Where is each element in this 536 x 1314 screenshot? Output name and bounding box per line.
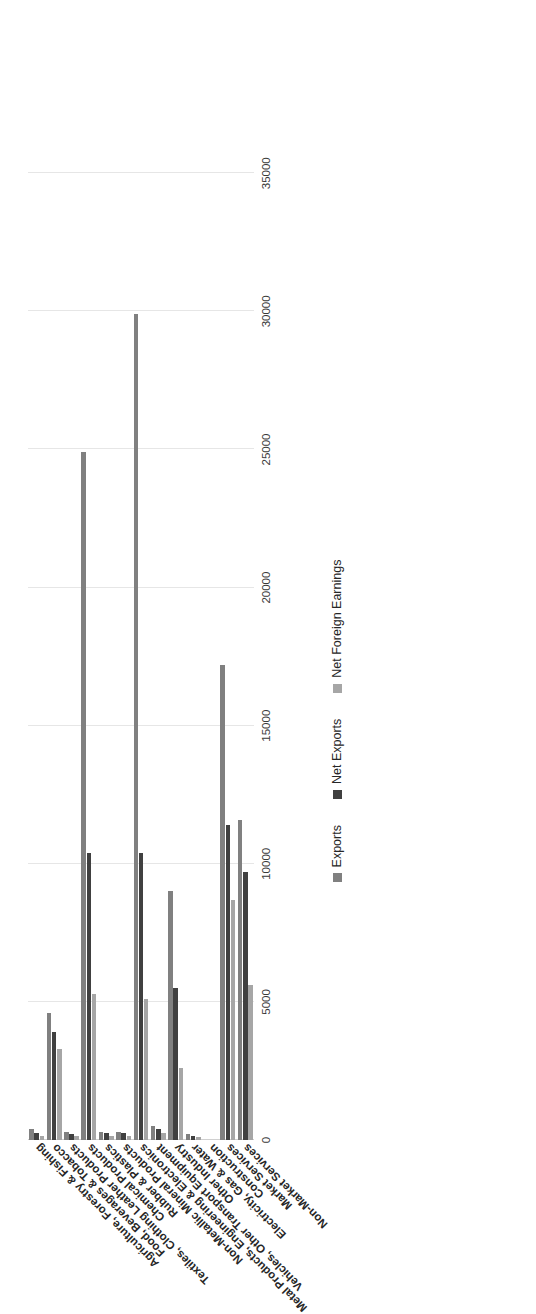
bar	[99, 1132, 104, 1140]
tick-label: 30000	[260, 295, 272, 327]
bar	[87, 853, 92, 1140]
bar	[34, 1133, 39, 1140]
bar	[127, 1136, 132, 1140]
legend-swatch-icon	[333, 684, 342, 693]
gridline	[28, 310, 254, 311]
legend-swatch-icon	[333, 790, 342, 799]
bar	[139, 853, 144, 1140]
bar	[231, 900, 236, 1140]
bar	[168, 891, 173, 1140]
bar	[238, 820, 243, 1140]
bar	[92, 994, 97, 1140]
bar	[134, 314, 139, 1140]
tick-label: 0	[260, 1137, 272, 1143]
bar	[109, 1136, 114, 1140]
bar	[243, 872, 248, 1140]
bar	[47, 1013, 52, 1140]
bar	[144, 999, 149, 1140]
tick-label: 25000	[260, 433, 272, 465]
bar	[151, 1126, 156, 1140]
bar	[69, 1134, 74, 1140]
legend-item[interactable]: Exports	[330, 825, 344, 882]
bar	[220, 665, 225, 1140]
bar	[179, 1068, 184, 1140]
bar	[248, 985, 253, 1140]
bar	[64, 1132, 69, 1140]
bar	[40, 1136, 45, 1140]
bar	[121, 1133, 126, 1140]
bar	[191, 1136, 196, 1140]
chart-legend: ExportsNet ExportsNet Foreign Earnings	[330, 210, 344, 1232]
bar	[29, 1129, 34, 1140]
legend-item[interactable]: Net Exports	[330, 719, 344, 799]
bar	[226, 825, 231, 1140]
bar	[74, 1136, 79, 1140]
gridline	[28, 172, 254, 173]
legend-item[interactable]: Net Foreign Earnings	[330, 560, 344, 693]
legend-label: Exports	[330, 825, 344, 867]
bar	[161, 1133, 166, 1140]
bar	[186, 1134, 191, 1140]
legend-label: Net Exports	[330, 719, 344, 784]
bar	[104, 1133, 109, 1140]
tick-label: 5000	[260, 989, 272, 1015]
tick-label: 20000	[260, 572, 272, 604]
bar	[116, 1132, 121, 1140]
tick-label: 15000	[260, 710, 272, 742]
tick-label: 35000	[260, 157, 272, 189]
bar	[52, 1032, 57, 1140]
tick-label: 10000	[260, 848, 272, 880]
gridline	[28, 587, 254, 588]
gridline	[28, 448, 254, 449]
bar	[173, 988, 178, 1140]
bar	[196, 1137, 201, 1140]
plot-area: 05000100001500020000250003000035000 Agri…	[28, 118, 254, 1140]
legend-label: Net Foreign Earnings	[330, 560, 344, 678]
legend-swatch-icon	[333, 873, 342, 882]
bar	[81, 452, 86, 1140]
bar	[57, 1049, 62, 1140]
bar	[156, 1129, 161, 1140]
